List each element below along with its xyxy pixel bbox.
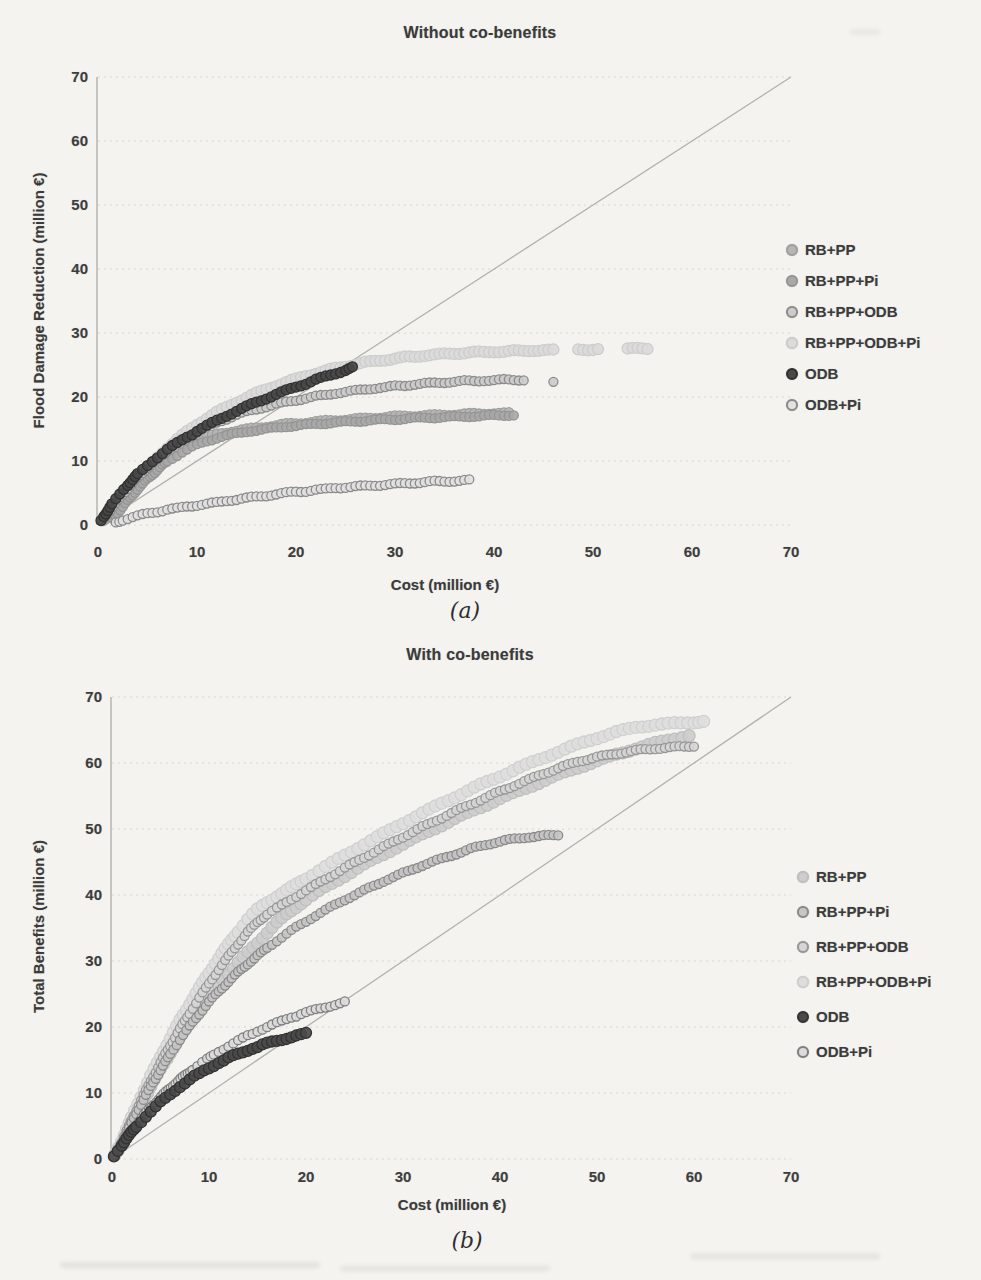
series-rb-pp-odb: [111, 742, 698, 1158]
x-tick-label: 60: [672, 1168, 716, 1185]
x-tick-label: 70: [769, 543, 813, 560]
y-tick-label: 30: [50, 952, 102, 969]
series-rb-pp-odb: [99, 375, 558, 524]
series-rb-pp-odb-pi: [98, 342, 654, 525]
y-tick-label: 70: [36, 68, 88, 85]
scan-artifact: [850, 30, 880, 34]
chart-b-y-axis-title: Total Benefits (million €): [30, 697, 47, 1157]
y-tick-label: 40: [36, 260, 88, 277]
y-tick-label: 20: [50, 1018, 102, 1035]
chart-b-caption: (b): [367, 1228, 567, 1253]
legend-marker-icon: [786, 399, 798, 411]
scan-artifact: [340, 1266, 550, 1271]
y-tick-label: 30: [36, 324, 88, 341]
legend-item-odb: ODB: [786, 365, 838, 382]
y-tick-label: 60: [50, 754, 102, 771]
series-odb: [108, 1027, 311, 1162]
y-tick-label: 20: [36, 388, 88, 405]
x-tick-label: 0: [76, 543, 120, 560]
legend-label: RB+PP: [805, 241, 855, 258]
legend-label: RB+PP+ODB+Pi: [805, 334, 920, 351]
x-tick-label: 10: [187, 1168, 231, 1185]
legend-item-odb-pi: ODB+Pi: [797, 1043, 872, 1060]
chart-a-title: Without co-benefits: [98, 24, 862, 42]
legend-item-rb-pp-odb: RB+PP+ODB: [786, 303, 898, 320]
series-rb-pp-odb-pi: [110, 715, 710, 1158]
legend-label: RB+PP+Pi: [805, 272, 878, 289]
scan-artifact: [690, 1254, 880, 1259]
legend-marker-icon: [786, 244, 798, 256]
y-tick-label: 50: [50, 820, 102, 837]
x-tick-label: 0: [90, 1168, 134, 1185]
x-tick-label: 30: [373, 543, 417, 560]
chart-a-x-axis-title: Cost (million €): [245, 576, 645, 593]
legend-marker-icon: [786, 275, 798, 287]
x-tick-label: 40: [478, 1168, 522, 1185]
legend-marker-icon: [797, 906, 809, 918]
x-tick-label: 20: [284, 1168, 328, 1185]
legend-item-odb-pi: ODB+Pi: [786, 396, 861, 413]
y-tick-label: 50: [36, 196, 88, 213]
series-odb-pi: [111, 475, 474, 527]
chart-b-x-axis-title: Cost (million €): [252, 1196, 652, 1213]
legend-label: ODB+Pi: [816, 1043, 872, 1060]
legend-item-rb-pp-pi: RB+PP+Pi: [797, 903, 889, 920]
legend-marker-icon: [786, 306, 798, 318]
x-tick-label: 50: [571, 543, 615, 560]
legend-marker-icon: [797, 1046, 809, 1058]
legend-label: ODB+Pi: [805, 396, 861, 413]
legend-item-rb-pp-pi: RB+PP+Pi: [786, 272, 878, 289]
legend-label: RB+PP+Pi: [816, 903, 889, 920]
x-tick-label: 40: [472, 543, 516, 560]
legend-label: RB+PP+ODB: [816, 938, 909, 955]
x-tick-label: 10: [175, 543, 219, 560]
legend-marker-icon: [786, 337, 798, 349]
reference-diagonal-line: [98, 77, 791, 525]
chart-b-title: With co-benefits: [103, 646, 837, 664]
series-rb-pp-pi: [111, 830, 562, 1158]
y-tick-label: 10: [50, 1084, 102, 1101]
y-tick-label: 10: [36, 452, 88, 469]
series-rb-pp: [109, 730, 695, 1161]
y-tick-label: 0: [50, 1150, 102, 1167]
legend-marker-icon: [797, 976, 809, 988]
y-tick-label: 60: [36, 132, 88, 149]
legend-label: ODB: [816, 1008, 849, 1025]
legend-label: RB+PP+ODB: [805, 303, 898, 320]
legend-marker-icon: [797, 871, 809, 883]
y-tick-label: 0: [36, 516, 88, 533]
x-tick-label: 50: [575, 1168, 619, 1185]
reference-diagonal-line: [112, 697, 791, 1159]
x-tick-label: 20: [274, 543, 318, 560]
chart-a-caption: (a): [365, 598, 565, 623]
legend-marker-icon: [797, 941, 809, 953]
legend-marker-icon: [797, 1011, 809, 1023]
scan-artifact: [60, 1262, 320, 1268]
legend-item-odb: ODB: [797, 1008, 849, 1025]
series-odb-pi: [110, 997, 349, 1160]
y-tick-label: 40: [50, 886, 102, 903]
x-tick-label: 30: [381, 1168, 425, 1185]
legend-marker-icon: [786, 368, 798, 380]
legend-label: RB+PP+ODB+Pi: [816, 973, 931, 990]
legend-item-rb-pp: RB+PP: [797, 868, 866, 885]
series-odb: [96, 362, 357, 526]
legend-item-rb-pp-odb-pi: RB+PP+ODB+Pi: [797, 973, 931, 990]
legend-label: RB+PP: [816, 868, 866, 885]
legend-item-rb-pp-odb: RB+PP+ODB: [797, 938, 909, 955]
legend-item-rb-pp-odb-pi: RB+PP+ODB+Pi: [786, 334, 920, 351]
series-rb-pp: [99, 408, 514, 526]
series-rb-pp-pi: [108, 410, 518, 523]
scanned-figure-page: Without co-benefits Flood Damage Reducti…: [0, 0, 981, 1280]
x-tick-label: 60: [670, 543, 714, 560]
legend-label: ODB: [805, 365, 838, 382]
scatter-plot-canvas: [0, 0, 981, 1280]
legend-item-rb-pp: RB+PP: [786, 241, 855, 258]
x-tick-label: 70: [769, 1168, 813, 1185]
y-tick-label: 70: [50, 688, 102, 705]
